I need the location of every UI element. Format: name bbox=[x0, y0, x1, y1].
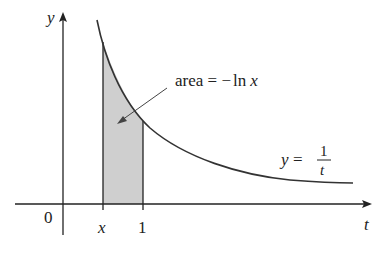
x-axis-label: t bbox=[364, 215, 370, 234]
y-axis-label: y bbox=[45, 8, 55, 27]
curve-label-numerator: 1 bbox=[320, 143, 328, 159]
curve-label-lhs: y bbox=[279, 150, 289, 169]
x-tick-label: x bbox=[97, 218, 106, 237]
curve-label-equals: = bbox=[293, 150, 303, 169]
one-tick-label: 1 bbox=[138, 218, 147, 237]
curve-label-denominator: t bbox=[320, 162, 325, 178]
diagram-canvas: y t 0 x 1 area = −lnx y = 1 t bbox=[0, 0, 387, 260]
shaded-area bbox=[103, 42, 143, 204]
origin-label: 0 bbox=[44, 208, 53, 227]
area-annotation: area = −lnx bbox=[175, 71, 258, 90]
